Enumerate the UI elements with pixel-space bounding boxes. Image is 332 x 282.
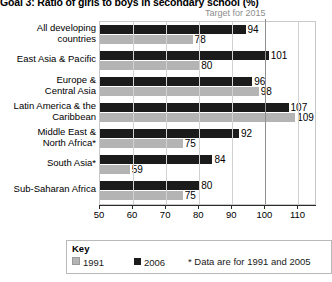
y-axis-label-line: Caribbean	[0, 112, 96, 123]
x-tick-label-70: 70	[160, 209, 171, 220]
chart-root: Goal 3: Ratio of girls to boys in second…	[0, 0, 332, 282]
bar-2006-1	[100, 51, 269, 60]
y-axis-label-2: Europe &Central Asia	[0, 75, 96, 96]
legend-entries: * Data are for 1991 and 2005 19912006	[72, 256, 329, 270]
bar-value-2006-6: 80	[201, 181, 212, 190]
legend-box: Key * Data are for 1991 and 2005 1991200…	[66, 240, 332, 274]
x-tick-label-100: 100	[256, 209, 272, 220]
y-axis-label-0: All developingcountries	[0, 23, 96, 44]
y-axis-labels: All developingcountriesEast Asia & Pacif…	[0, 21, 96, 205]
bar-2006-3	[100, 103, 289, 112]
y-axis-label-3: Latin America & theCaribbean	[0, 101, 96, 122]
target-for-2015-annotation: Target for 2015	[205, 8, 266, 18]
y-axis-label-line: countries	[0, 34, 96, 45]
y-axis-label-line: North Africa*	[0, 138, 96, 149]
bar-value-1991-1: 80	[201, 61, 212, 70]
legend-entry-2006: 2006	[134, 256, 165, 268]
bar-value-1991-6: 75	[185, 191, 196, 200]
y-axis-label-line: Central Asia	[0, 86, 96, 97]
y-axis-label-6: Sub-Saharan Africa	[0, 184, 96, 195]
bar-1991-5	[100, 165, 130, 174]
y-axis-label-line: Middle East &	[0, 127, 96, 138]
target-line	[265, 19, 266, 204]
bar-2006-0	[100, 25, 246, 34]
x-axis: 5060708090100110	[99, 205, 316, 221]
y-axis-label-line: East Asia & Pacific	[0, 54, 96, 65]
bar-value-1991-4: 75	[185, 139, 196, 148]
bar-1991-2	[100, 87, 259, 96]
plot-area: 9478101809698107109927584598075	[99, 21, 316, 205]
x-tick-label-110: 110	[290, 209, 305, 220]
x-tick-label-80: 80	[193, 209, 204, 220]
bar-value-2006-4: 92	[241, 129, 252, 138]
y-axis-label-line: Latin America & the	[0, 101, 96, 112]
y-axis-label-line: Europe &	[0, 75, 96, 86]
bar-2006-6	[100, 181, 199, 190]
legend-footnote: * Data are for 1991 and 2005	[188, 256, 311, 267]
legend-swatch-2006	[134, 258, 141, 265]
y-axis-label-4: Middle East &North Africa*	[0, 127, 96, 148]
bar-2006-5	[100, 155, 212, 164]
bar-value-2006-1: 101	[271, 51, 288, 60]
bar-1991-1	[100, 61, 199, 70]
y-axis-label-line: South Asia*	[0, 158, 96, 169]
y-axis-label-1: East Asia & Pacific	[0, 54, 96, 65]
bar-1991-4	[100, 139, 183, 148]
bar-value-1991-3: 109	[297, 113, 314, 122]
gridline-70	[166, 22, 167, 204]
bar-value-2006-5: 84	[214, 155, 225, 164]
gridline-60	[133, 22, 134, 204]
legend-entry-1991: 1991	[72, 256, 104, 268]
y-axis-label-5: South Asia*	[0, 158, 96, 169]
chart-title: Goal 3: Ratio of girls to boys in second…	[0, 0, 332, 8]
gridline-110	[298, 22, 299, 204]
legend-swatch-1991	[72, 257, 80, 265]
y-axis-label-line: Sub-Saharan Africa	[0, 184, 96, 195]
legend-label-1991: 1991	[83, 257, 104, 268]
bar-value-2006-2: 96	[254, 77, 265, 86]
legend-title: Key	[72, 243, 89, 254]
y-axis-label-line: All developing	[0, 23, 96, 34]
x-tick-label-50: 50	[94, 209, 105, 220]
bar-1991-6	[100, 191, 183, 200]
bar-value-2006-0: 94	[248, 25, 259, 34]
legend-label-2006: 2006	[144, 257, 165, 268]
bar-2006-4	[100, 129, 239, 138]
gridline-80	[199, 22, 200, 204]
x-tick-label-60: 60	[127, 209, 138, 220]
gridline-90	[232, 22, 233, 204]
bar-2006-2	[100, 77, 252, 86]
bar-1991-0	[100, 35, 193, 44]
x-tick-label-90: 90	[226, 209, 237, 220]
